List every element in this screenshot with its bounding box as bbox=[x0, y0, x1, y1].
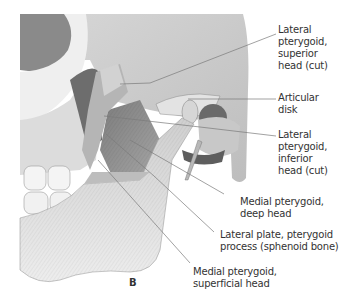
panel-letter: B bbox=[129, 277, 137, 288]
label-lateral-pterygoid-superior-head: Lateral pterygoid, superior head (cut) bbox=[278, 24, 328, 72]
label-lateral-plate-pterygoid-process: Lateral plate, pterygoid process (spheno… bbox=[220, 229, 339, 253]
label-articular-disk: Articular disk bbox=[278, 92, 319, 116]
label-medial-pterygoid-deep-head: Medial pterygoid, deep head bbox=[240, 196, 324, 220]
label-lateral-pterygoid-inferior-head: Lateral pterygoid, inferior head (cut) bbox=[278, 129, 328, 177]
label-medial-pterygoid-superficial-head: Medial pterygoid, superficial head bbox=[193, 266, 277, 290]
